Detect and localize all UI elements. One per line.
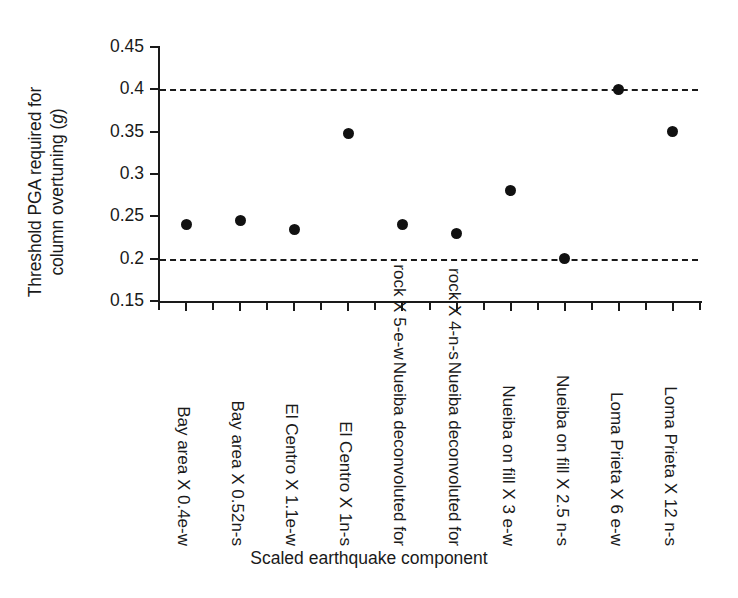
data-point — [613, 84, 624, 95]
x-category-label-line: Nueiba deconvoluted for — [390, 362, 409, 546]
x-category-label-line: El Centro X 1n-s — [336, 421, 355, 546]
x-category-label-line: rock X 5-e-w — [390, 264, 409, 359]
y-tick-mark — [150, 46, 158, 48]
threshold-line — [160, 259, 698, 261]
x-tick-mark — [564, 303, 566, 311]
y-tick-label: 0.45 — [86, 38, 144, 56]
x-category-label-line: Nueiba on fill X 3 e-w — [499, 385, 518, 546]
y-axis-title-line-2-text: column overtuning ( — [47, 124, 67, 276]
y-axis-line — [158, 46, 160, 302]
data-point — [667, 126, 678, 137]
x-tick-mark — [185, 303, 187, 311]
x-tick-boundary — [699, 303, 701, 310]
x-tick-boundary — [591, 303, 593, 310]
data-point — [505, 185, 516, 196]
y-axis-unit-g: g — [47, 114, 67, 124]
x-category-label-line: El Centro X 1.1e-w — [282, 403, 301, 546]
data-point — [559, 253, 570, 264]
x-category-label-line: Loma Prieta X 12 n-s — [661, 386, 680, 546]
x-category-label-line: rock X 4-n-s — [445, 268, 464, 360]
data-point — [289, 224, 300, 235]
x-category-label-line: Nueiba deconvoluted for — [445, 362, 464, 546]
y-tick-label: 0.2 — [86, 250, 144, 268]
x-tick-mark — [347, 303, 349, 311]
y-axis-title-line-2: column overtuning (g) — [46, 108, 68, 275]
x-category-label-lines: Nueiba deconvoluted forrock X 5-e-w — [390, 316, 409, 546]
x-category-label-lines: Bay area X 0.4e-w — [174, 316, 193, 546]
data-point — [397, 219, 408, 230]
data-point — [181, 219, 192, 230]
x-tick-mark — [239, 303, 241, 311]
x-category-label-line: Bay area X 0.4e-w — [174, 406, 193, 546]
x-tick-boundary — [429, 303, 431, 310]
y-tick-label: 0.4 — [86, 80, 144, 98]
y-tick-mark — [150, 215, 158, 217]
y-tick-label: 0.15 — [86, 292, 144, 310]
x-axis-title: Scaled earthquake component — [0, 548, 738, 569]
x-tick-mark — [672, 303, 674, 311]
data-point — [451, 228, 462, 239]
x-category-label-lines: Nueiba on fill X 3 e-w — [499, 316, 518, 546]
y-tick-mark — [150, 88, 158, 90]
x-tick-mark — [510, 303, 512, 311]
x-category-label-line: Loma Prieta X 6 e-w — [607, 392, 626, 546]
x-tick-mark — [293, 303, 295, 311]
y-tick-mark — [150, 131, 158, 133]
y-axis-unit-close-paren: ) — [47, 108, 67, 114]
x-tick-boundary — [374, 303, 376, 310]
y-tick-mark — [150, 258, 158, 260]
x-tick-boundary — [483, 303, 485, 310]
y-tick-label: 0.3 — [86, 165, 144, 183]
y-axis-title-line-1: Threshold PGA required for — [24, 87, 46, 297]
x-category-label-lines: Nueiba deconvoluted forrock X 4-n-s — [445, 316, 464, 546]
x-tick-boundary — [158, 303, 160, 310]
x-tick-boundary — [537, 303, 539, 310]
data-point — [343, 128, 354, 139]
x-category-label-lines: El Centro X 1n-s — [336, 316, 355, 546]
x-category-label-lines: Loma Prieta X 6 e-w — [607, 316, 626, 546]
y-tick-label: 0.35 — [86, 123, 144, 141]
chart-figure: Threshold PGA required for column overtu… — [0, 0, 738, 598]
x-category-label-line: Nueiba on fill X 2.5 n-s — [553, 375, 572, 546]
x-tick-boundary — [645, 303, 647, 310]
x-category-label-lines: Loma Prieta X 12 n-s — [661, 316, 680, 546]
x-tick-boundary — [266, 303, 268, 310]
x-tick-boundary — [212, 303, 214, 310]
x-category-label-line: Bay area X 0.52n-s — [228, 400, 247, 546]
y-tick-mark — [150, 300, 158, 302]
x-tick-mark — [618, 303, 620, 311]
data-point — [235, 215, 246, 226]
x-category-label-lines: Nueiba on fill X 2.5 n-s — [553, 316, 572, 546]
y-tick-mark — [150, 173, 158, 175]
x-category-label-lines: Bay area X 0.52n-s — [228, 316, 247, 546]
y-axis-title: Threshold PGA required for column overtu… — [21, 42, 71, 342]
y-tick-label: 0.25 — [86, 207, 144, 225]
x-tick-boundary — [320, 303, 322, 310]
x-category-label-lines: El Centro X 1.1e-w — [282, 316, 301, 546]
